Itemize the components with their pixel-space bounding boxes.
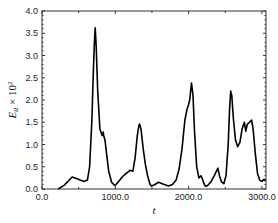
y-tick-label: 1.5 bbox=[25, 117, 38, 127]
y-axis-label: Ea × 102 bbox=[6, 81, 20, 119]
x-axis-label: t bbox=[152, 204, 156, 216]
y-tick-label: 4.0 bbox=[25, 6, 38, 16]
x-tick-label: 0.0 bbox=[36, 192, 49, 202]
x-tick-label: 1000.0 bbox=[102, 192, 130, 202]
x-tick-label: 3000.0 bbox=[248, 192, 276, 202]
x-axis: 0.01000.02000.03000.0 bbox=[36, 11, 276, 202]
line-chart: 0.00.51.01.52.02.53.03.54.0 0.01000.0200… bbox=[0, 0, 278, 223]
y-tick-label: 1.0 bbox=[25, 140, 38, 150]
y-tick-label: 3.0 bbox=[25, 51, 38, 61]
x-tick-label: 2000.0 bbox=[175, 192, 203, 202]
y-tick-label: 2.5 bbox=[25, 73, 38, 83]
y-tick-label: 3.5 bbox=[25, 28, 38, 38]
y-tick-label: 0.5 bbox=[25, 162, 38, 172]
series-line-ea bbox=[58, 28, 266, 189]
y-tick-label: 2.0 bbox=[25, 95, 38, 105]
